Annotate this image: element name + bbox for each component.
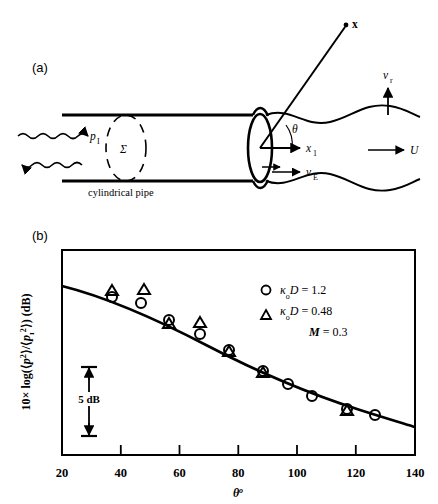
jet-boundary-bottom	[266, 173, 420, 191]
data-point-circle	[107, 292, 117, 302]
exit-velocity-subscript: E	[313, 173, 318, 182]
incoming-wave-arrow	[18, 134, 88, 139]
exit-velocity-label: v	[306, 166, 312, 178]
x-axis-title: θo	[233, 486, 243, 501]
data-point-triangle	[138, 284, 150, 294]
x-tick-label-6: 140	[406, 466, 425, 480]
legend-label-mach: M = 0.3	[308, 325, 347, 339]
panel-a-letter: (a)	[32, 60, 48, 75]
incident-pressure-label: p	[89, 130, 96, 143]
data-point-triangle	[194, 317, 206, 327]
theta-label: θ	[292, 123, 298, 135]
y-axis-title: 10× log(⟨p2⟩/⟨pI2⟩) (dB)	[19, 294, 37, 411]
x-axis-ticks	[121, 445, 415, 455]
panel-a: (a) Σ p I cylindrical pipe	[18, 18, 420, 198]
x-tick-label-5: 120	[346, 466, 365, 480]
data-point-circle	[195, 329, 205, 339]
panel-b: (b) 20 40 60 80 100 120 140 θo	[19, 228, 425, 500]
panel-b-letter: (b)	[32, 228, 48, 243]
x-tick-label-2: 60	[173, 466, 186, 480]
observer-ray	[260, 27, 345, 148]
legend-label-triangle: κoD = 0.48	[280, 304, 332, 322]
field-point-label: x	[352, 18, 358, 30]
radial-velocity-label: v	[383, 69, 389, 81]
figure-root: (a) Σ p I cylindrical pipe	[0, 0, 438, 504]
data-point-triangle	[106, 285, 118, 295]
axial-coord-label: x	[305, 142, 312, 154]
scalebar-5db: 5 dB	[70, 367, 108, 436]
x-tick-label-0: 20	[56, 466, 69, 480]
series-circle-points	[107, 292, 380, 420]
plot-frame	[62, 250, 415, 455]
mean-flow-label: U	[410, 144, 419, 156]
chart-legend: κoD = 1.2 κoD = 0.48 M = 0.3	[261, 283, 347, 339]
data-point-circle	[136, 298, 146, 308]
x-tick-label-4: 100	[288, 466, 307, 480]
legend-marker-circle	[262, 286, 271, 295]
legend-label-circle: κoD = 1.2	[280, 283, 326, 301]
pipe-caption: cylindrical pipe	[88, 187, 154, 198]
outgoing-wave-arrow	[22, 163, 82, 168]
theory-curve	[62, 286, 415, 427]
field-point-dot	[344, 23, 349, 28]
axial-coord-subscript: 1	[313, 149, 317, 158]
radial-velocity-subscript: r	[390, 76, 393, 85]
figure-svg: (a) Σ p I cylindrical pipe	[0, 0, 438, 504]
incident-pressure-subscript: I	[97, 137, 100, 146]
x-tick-label-1: 40	[115, 466, 128, 480]
sigma-label: Σ	[119, 143, 127, 155]
x-tick-label-3: 80	[232, 466, 245, 480]
legend-marker-triangle	[261, 310, 271, 319]
scalebar-label: 5 dB	[78, 393, 100, 405]
